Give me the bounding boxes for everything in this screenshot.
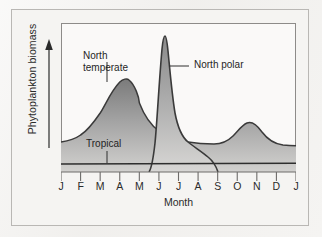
x-tick-label-apr: A xyxy=(112,180,128,192)
x-tick-label-jun: J xyxy=(151,180,167,192)
x-tick-label-may: M xyxy=(131,180,147,192)
x-tick-label-jan: J xyxy=(53,180,69,192)
x-axis-label: Month xyxy=(61,196,296,208)
figure-container: Phytoplankton biomass Month J F M A M J … xyxy=(0,0,322,237)
chart-plot xyxy=(61,23,296,182)
x-tick-label-mar: M xyxy=(92,180,108,192)
x-tick-label-jan2: J xyxy=(288,180,304,192)
series-label-north-temperate: Northtemperate xyxy=(83,50,128,73)
x-tick-label-dec: D xyxy=(268,180,284,192)
x-tick-label-oct: O xyxy=(229,180,245,192)
x-tick-label-jul: J xyxy=(171,180,187,192)
series-label-north-polar: North polar xyxy=(194,59,243,71)
y-axis-label: Phytoplankton biomass xyxy=(26,4,38,154)
series-tropical-line xyxy=(61,163,296,164)
x-tick-label-aug: A xyxy=(190,180,206,192)
x-tick-label-sep: S xyxy=(210,180,226,192)
y-axis-arrow-icon xyxy=(40,36,58,152)
series-label-tropical: Tropical xyxy=(86,138,121,150)
x-tick-label-feb: F xyxy=(73,180,89,192)
x-tick-label-nov: N xyxy=(249,180,265,192)
